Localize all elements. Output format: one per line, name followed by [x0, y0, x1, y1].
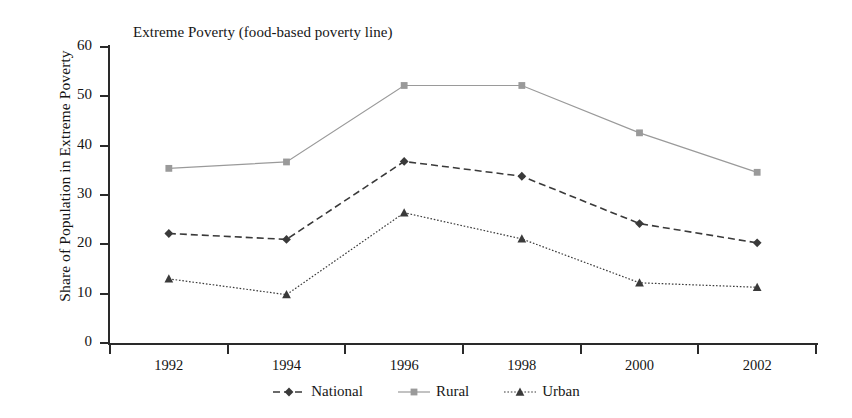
y-tick-label: 20 [52, 234, 92, 251]
x-tick-label: 1996 [369, 357, 439, 374]
chart-figure: Share of Population in Extreme Poverty E… [0, 0, 852, 418]
x-tick-label: 1998 [487, 357, 557, 374]
x-tick-mark [580, 345, 582, 354]
data-point-marker [635, 278, 644, 286]
data-point-marker [283, 159, 290, 166]
y-tick-mark [100, 194, 109, 196]
legend-label: Urban [542, 384, 580, 399]
y-tick-label: 30 [52, 185, 92, 202]
series-line [169, 213, 757, 295]
data-point-marker [517, 234, 526, 242]
legend-item-rural[interactable]: Rural [397, 384, 469, 399]
series-line [169, 85, 757, 172]
y-tick-label: 10 [52, 284, 92, 301]
y-tick-label: 60 [52, 37, 92, 54]
x-tick-mark [227, 345, 229, 354]
data-point-marker [518, 82, 525, 89]
series-plot [0, 0, 852, 418]
y-tick-label: 40 [52, 136, 92, 153]
series-rural [165, 82, 760, 176]
data-point-marker [754, 169, 761, 176]
series-line [169, 161, 757, 242]
legend-swatch-triangle-icon [503, 385, 537, 399]
x-tick-label: 1994 [252, 357, 322, 374]
data-point-marker [401, 82, 408, 89]
data-point-marker [753, 238, 762, 247]
data-point-marker [400, 157, 409, 166]
data-point-marker [164, 229, 173, 238]
legend-swatch-diamond-icon [272, 385, 306, 399]
legend-label: Rural [436, 384, 469, 399]
legend-item-urban[interactable]: Urban [503, 384, 580, 399]
y-tick-label: 0 [52, 333, 92, 350]
y-tick-mark [100, 293, 109, 295]
data-point-marker [282, 290, 291, 298]
legend-item-national[interactable]: National [272, 384, 363, 399]
x-tick-mark [462, 345, 464, 354]
y-tick-mark [100, 243, 109, 245]
x-tick-label: 2000 [605, 357, 675, 374]
data-point-marker [753, 283, 762, 291]
data-point-marker [165, 165, 172, 172]
x-tick-mark [815, 345, 817, 354]
data-point-marker [635, 219, 644, 228]
legend-label: National [311, 384, 363, 399]
legend: NationalRuralUrban [0, 384, 852, 399]
y-tick-label: 50 [52, 86, 92, 103]
y-tick-mark [100, 145, 109, 147]
legend-swatch-square-icon [397, 385, 431, 399]
x-tick-mark [697, 345, 699, 354]
data-point-marker [636, 129, 643, 136]
y-tick-mark [100, 46, 109, 48]
chart-title: Extreme Poverty (food-based poverty line… [133, 24, 392, 41]
data-point-marker [282, 235, 291, 244]
series-urban [164, 208, 761, 298]
data-point-marker [411, 388, 418, 395]
data-point-marker [516, 387, 525, 395]
series-national [164, 157, 761, 247]
data-point-marker [164, 274, 173, 282]
x-tick-mark [344, 345, 346, 354]
x-tick-label: 2002 [722, 357, 792, 374]
data-point-marker [517, 172, 526, 181]
data-point-marker [285, 387, 294, 396]
x-tick-mark [109, 345, 111, 354]
y-tick-mark [100, 342, 109, 344]
y-tick-mark [100, 95, 109, 97]
x-tick-label: 1992 [134, 357, 204, 374]
data-point-marker [400, 208, 409, 216]
